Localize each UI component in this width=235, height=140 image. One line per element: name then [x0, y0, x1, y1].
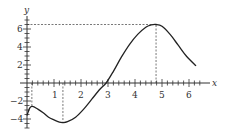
y-tick-label-4: 4 [17, 42, 23, 52]
x-axis-label: x [212, 78, 217, 88]
function-plot: x y 1 2 3 4 5 6 2 4 6 −2 −4 [0, 0, 235, 140]
y-tick-label-neg4: −4 [10, 114, 24, 124]
y-tick-label-6: 6 [17, 24, 23, 34]
x-tick-label-2: 2 [78, 90, 84, 100]
x-tick-label-6: 6 [186, 90, 192, 100]
x-tick-label-4: 4 [132, 90, 138, 100]
axes [20, 16, 210, 128]
x-tick-label-1: 1 [52, 90, 58, 100]
y-tick-label-2: 2 [17, 60, 23, 70]
y-tick-label-neg2: −2 [10, 96, 23, 106]
function-curve [27, 24, 196, 122]
reference-dashed-lines [27, 25, 156, 123]
x-tick-label-5: 5 [159, 90, 165, 100]
y-axis-label: y [23, 5, 30, 15]
x-tick-label-3: 3 [105, 90, 111, 100]
